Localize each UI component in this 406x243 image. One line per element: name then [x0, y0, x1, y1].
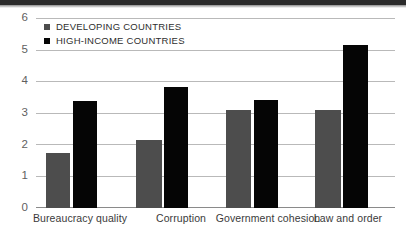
legend-item-developing-countries: DEVELOPING COUNTRIES: [44, 20, 274, 33]
chart-legend: DEVELOPING COUNTRIES HIGH-INCOME COUNTRI…: [44, 20, 274, 48]
bar-developing-bureaucracy-quality: [46, 153, 70, 208]
bar-high-income-corruption: [164, 87, 188, 208]
legend-item-high-income-countries: HIGH-INCOME COUNTRIES: [44, 34, 274, 47]
legend-label-developing-countries: DEVELOPING COUNTRIES: [56, 22, 181, 32]
bar-developing-law-and-order: [315, 110, 341, 208]
legend-swatch-icon-developing: [44, 24, 50, 30]
legend-swatch-icon-high-income: [44, 38, 50, 44]
y-axis-tick-1: 1: [21, 170, 28, 182]
x-axis-label-law-and-order: Law and order: [293, 212, 403, 224]
bar-high-income-bureaucracy-quality: [73, 101, 97, 208]
bar-high-income-government-cohesion: [254, 100, 279, 208]
legend-label-high-income-countries: HIGH-INCOME COUNTRIES: [56, 36, 185, 46]
bar-developing-government-cohesion: [226, 110, 252, 208]
y-axis-tick-6: 6: [21, 12, 28, 24]
x-axis-category-labels: Bureaucracy quality Corruption Governmen…: [0, 212, 406, 240]
y-axis: 6 5 4 3 2 1 0: [0, 0, 36, 243]
bar-high-income-law-and-order: [343, 45, 368, 208]
grouped-bar-chart: 6 5 4 3 2 1 0 Bureaucracy quality Corrup: [0, 0, 406, 243]
y-axis-tick-3: 3: [21, 107, 28, 119]
y-axis-tick-5: 5: [21, 44, 28, 56]
bar-developing-corruption: [136, 140, 162, 208]
y-axis-tick-2: 2: [21, 139, 28, 151]
y-axis-tick-4: 4: [21, 75, 28, 87]
